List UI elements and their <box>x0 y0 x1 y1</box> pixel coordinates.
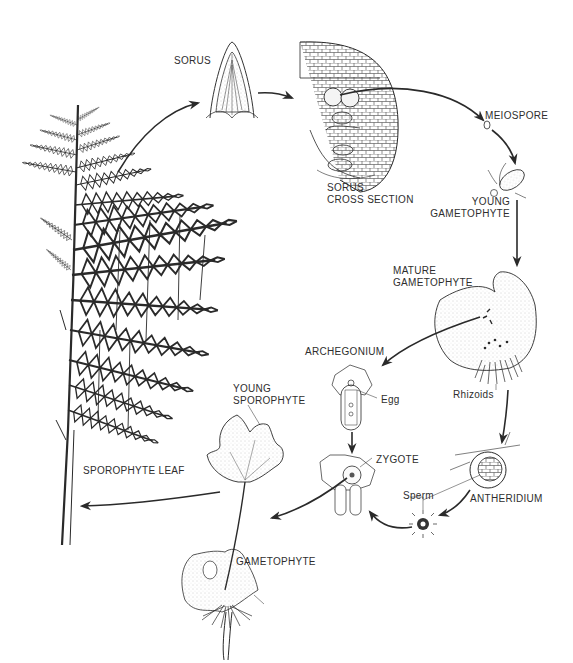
arrow-antheridium-to-sperm <box>440 490 470 515</box>
arrow-meiospore-to-young-gametophyte <box>492 130 515 163</box>
label-sorus-cross-section-line1: SORUS <box>327 182 364 193</box>
young-gametophyte-illustration <box>488 163 528 198</box>
label-young-gametophyte-line1: YOUNG <box>470 196 510 207</box>
arrow-sorus-to-cross-section <box>258 93 292 98</box>
label-gametophyte: GAMETOPHYTE <box>236 556 316 567</box>
label-young-gametophyte-line2: GAMETOPHYTE <box>428 208 510 219</box>
arrow-sperm-to-zygote <box>370 512 412 528</box>
label-sorus: SORUS <box>174 55 211 66</box>
meiospore-illustration <box>484 121 490 129</box>
arrow-leaf-to-sorus <box>118 103 198 172</box>
antheridium-illustration <box>450 432 520 488</box>
label-sporophyte-leaf: SPOROPHYTE LEAF <box>83 465 185 476</box>
label-egg: Egg <box>381 394 400 405</box>
label-zygote: ZYGOTE <box>376 454 419 465</box>
zygote-illustration <box>320 455 375 515</box>
label-young-sporophyte-line2: SPOROPHYTE <box>233 395 305 406</box>
label-antheridium: ANTHERIDIUM <box>470 493 543 504</box>
label-mature-gametophyte-line2: GAMETOPHYTE <box>393 277 473 288</box>
label-young-sporophyte-line1: YOUNG <box>233 383 271 394</box>
label-mature-gametophyte-line1: MATURE <box>393 265 436 276</box>
arrow-young-sporophyte-to-leaf <box>82 492 220 506</box>
sporophyte-leaf-illustration <box>22 105 240 545</box>
label-rhizoids: Rhizoids <box>453 389 494 400</box>
label-meiospore: MEIOSPORE <box>485 110 548 121</box>
label-archegonium: ARCHEGONIUM <box>305 346 384 357</box>
sorus-illustration <box>206 42 258 118</box>
arrow-mature-gametophyte-to-antheridium <box>502 390 508 442</box>
archegonium-illustration <box>332 365 377 430</box>
sperm-illustration <box>409 475 480 538</box>
sorus-cross-section-illustration <box>300 42 398 192</box>
label-sperm: Sperm <box>403 490 434 501</box>
label-sorus-cross-section-line2: CROSS SECTION <box>327 194 414 205</box>
